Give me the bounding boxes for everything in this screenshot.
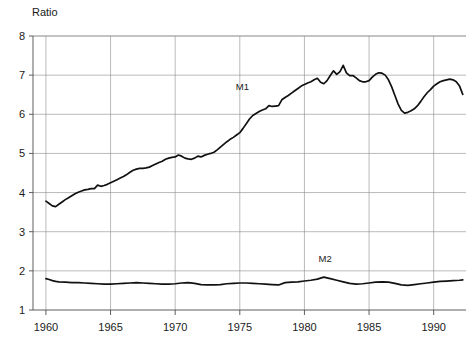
tick-marks-group bbox=[29, 36, 434, 315]
y-tick-label: 7 bbox=[19, 69, 25, 81]
series-annotation-m2: M2 bbox=[319, 253, 332, 264]
y-tick-label: 1 bbox=[19, 304, 25, 316]
ratio-line-chart: 12345678 1960196519701975198019851990 M1… bbox=[0, 0, 476, 345]
x-tick-label: 1980 bbox=[292, 321, 316, 333]
y-axis-title: Ratio bbox=[32, 6, 58, 18]
x-tick-label: 1975 bbox=[228, 321, 252, 333]
y-tick-label: 3 bbox=[19, 226, 25, 238]
y-tick-labels-group: 12345678 bbox=[19, 30, 25, 316]
y-tick-label: 6 bbox=[19, 108, 25, 120]
y-tick-label: 5 bbox=[19, 147, 25, 159]
gridlines-group bbox=[33, 36, 466, 310]
x-tick-labels-group: 1960196519701975198019851990 bbox=[34, 321, 446, 333]
data-series-line-m1 bbox=[46, 65, 463, 206]
x-tick-label: 1970 bbox=[163, 321, 187, 333]
x-tick-label: 1960 bbox=[34, 321, 58, 333]
y-tick-label: 2 bbox=[19, 265, 25, 277]
y-tick-label: 4 bbox=[19, 187, 25, 199]
chart-canvas: 12345678 1960196519701975198019851990 M1… bbox=[0, 0, 476, 345]
series-annotations-group: M1M2 bbox=[236, 81, 332, 265]
axes-group bbox=[33, 36, 466, 310]
x-tick-label: 1990 bbox=[421, 321, 445, 333]
x-tick-label: 1965 bbox=[98, 321, 122, 333]
x-tick-label: 1985 bbox=[357, 321, 381, 333]
series-annotation-m1: M1 bbox=[236, 81, 249, 92]
y-tick-label: 8 bbox=[19, 30, 25, 42]
data-series-line-m2 bbox=[46, 277, 463, 285]
data-series-group bbox=[46, 65, 463, 285]
